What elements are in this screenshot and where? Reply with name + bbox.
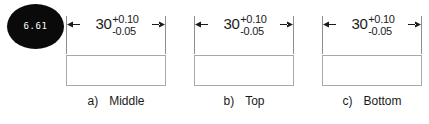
- measurement-annotation-badge: 6.61: [7, 4, 64, 49]
- badge-value: 6.61: [23, 22, 47, 31]
- part-rectangle: [66, 55, 166, 86]
- dimension-value-a: 30 +0.10 -0.05: [80, 16, 154, 37]
- upper-tolerance: +0.10: [368, 14, 394, 25]
- dimension-line-c: 30 +0.10 -0.05: [322, 16, 422, 54]
- dimension-group-b: 30 +0.10 -0.05 b) Top: [190, 0, 298, 124]
- caption-key: a): [87, 94, 98, 108]
- arrow-left-icon: [323, 21, 336, 28]
- diagram-canvas: 6.61 30 +0.10 -0.05 a) Middle: [0, 0, 429, 124]
- caption-key: c): [342, 94, 352, 108]
- dimension-value-c: 30 +0.10 -0.05: [336, 16, 410, 37]
- part-rectangle: [322, 55, 422, 86]
- arrow-left-icon: [195, 21, 208, 28]
- lower-tolerance: -0.05: [368, 26, 394, 37]
- caption-c: c) Bottom: [318, 94, 426, 108]
- extension-line-right: [421, 16, 422, 54]
- lower-tolerance: -0.05: [112, 26, 138, 37]
- caption-label: Top: [245, 94, 264, 108]
- dimension-group-a: 30 +0.10 -0.05 a) Middle: [62, 0, 170, 124]
- upper-tolerance: +0.10: [240, 14, 266, 25]
- tolerance-stack: +0.10 -0.05: [240, 14, 266, 37]
- extension-line-right: [293, 16, 294, 54]
- nominal-value: 30: [223, 16, 239, 32]
- dimension-line-b: 30 +0.10 -0.05: [194, 16, 294, 54]
- dimension-value-b: 30 +0.10 -0.05: [208, 16, 282, 37]
- nominal-value: 30: [351, 16, 367, 32]
- extension-line-right: [165, 16, 166, 54]
- tolerance-stack: +0.10 -0.05: [368, 14, 394, 37]
- lower-tolerance: -0.05: [240, 26, 266, 37]
- caption-label: Middle: [109, 94, 144, 108]
- upper-tolerance: +0.10: [112, 14, 138, 25]
- tolerance-stack: +0.10 -0.05: [112, 14, 138, 37]
- dimension-line-a: 30 +0.10 -0.05: [66, 16, 166, 54]
- nominal-value: 30: [95, 16, 111, 32]
- caption-a: a) Middle: [62, 94, 170, 108]
- caption-key: b): [223, 94, 234, 108]
- part-rectangle: [194, 55, 294, 86]
- arrow-left-icon: [67, 21, 80, 28]
- caption-b: b) Top: [190, 94, 298, 108]
- caption-label: Bottom: [363, 94, 401, 108]
- dimension-group-c: 30 +0.10 -0.05 c) Bottom: [318, 0, 426, 124]
